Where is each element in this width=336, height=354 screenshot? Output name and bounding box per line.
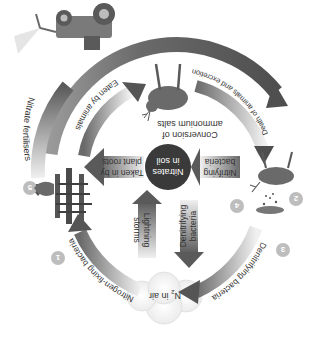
svg-text:Death of plants: Death of plants xyxy=(135,25,197,39)
dead-deer-illustration xyxy=(142,64,188,121)
arrow-denitrifying-inner: Denitrifying bacteria xyxy=(174,200,204,268)
soil-illustration xyxy=(256,193,284,214)
label-denitrifying-inner-line2: bacteria xyxy=(188,211,198,242)
badge-4: 4 xyxy=(230,199,244,213)
arrow-nitrifying-bacteria: Nitrifying bacteria xyxy=(191,148,240,186)
label-lightning-line1: Lightning xyxy=(142,213,152,248)
label-denitrifying-inner-line1: Denitrifying xyxy=(178,204,188,247)
arrowhead xyxy=(191,148,200,186)
diagram-canvas: Death of plants Nitrate fertilisers Eate… xyxy=(0,0,336,354)
svg-text:2: 2 xyxy=(293,194,298,203)
deer-illustration xyxy=(250,152,294,192)
svg-text:4: 4 xyxy=(234,201,239,210)
badge-1: 1 xyxy=(51,251,65,265)
badge-2: 2 xyxy=(289,192,303,206)
badge-3: 3 xyxy=(276,243,290,257)
label-nitrifying-line1: Nitrifying xyxy=(203,168,236,178)
label-taken-in-line2: plant roots xyxy=(102,157,142,167)
svg-text:5: 5 xyxy=(27,183,32,192)
label-lightning-line2: storms xyxy=(132,217,142,243)
arrowhead xyxy=(174,252,204,268)
label-nitrifying-line2: bacteria xyxy=(205,157,236,167)
label-death-of-plants: Death of plants xyxy=(135,25,197,39)
tractor-illustration xyxy=(14,3,115,54)
arrow-lightning-storms: Lightning storms xyxy=(132,190,162,258)
arrowhead xyxy=(132,190,162,204)
nitrogen-cycle-diagram: Death of plants Nitrate fertilisers Eate… xyxy=(0,0,336,354)
label-conversion-line1: Conversion of xyxy=(162,130,218,140)
arrow-taken-in-by-plant-roots: Taken in by plant roots xyxy=(84,148,144,186)
label-conversion-line2: ammonium salts xyxy=(157,119,223,129)
arrow-nitrate-fertilisers: Nitrate fertilisers xyxy=(21,86,68,196)
spray-icon xyxy=(14,28,40,54)
center-line1: Nitrates xyxy=(152,167,184,177)
center-line2: in soil xyxy=(156,156,179,166)
arrow-nitrogen-fixing: Nitrogen-fixing bacteria xyxy=(65,214,140,305)
svg-text:1: 1 xyxy=(55,253,60,262)
label-taken-in-line1: Taken in by xyxy=(100,168,144,178)
svg-text:3: 3 xyxy=(280,245,285,254)
nitrates-in-soil-node: Nitrates in soil xyxy=(145,144,191,190)
